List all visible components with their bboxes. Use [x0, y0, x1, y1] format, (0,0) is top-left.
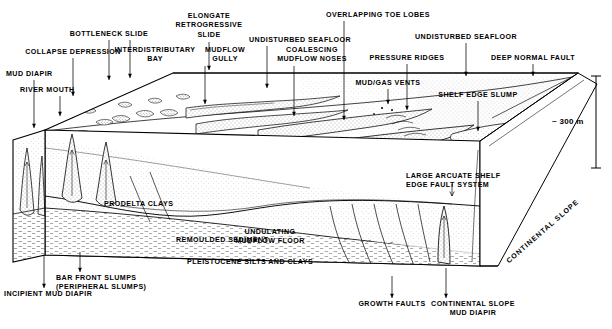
arrowhead-elongate-retrogressive-slide: [207, 66, 211, 70]
label-bottleneck-slide: BOTTLENECK SLIDE: [70, 30, 149, 39]
label-pressure-ridges: PRESSURE RIDGES: [370, 54, 445, 63]
label-undisturbed-seafloor-left: UNDISTURBED SEAFLOOR: [249, 36, 351, 45]
label-interdistributary-bay: INTERDISTRIBUTARY BAY: [115, 46, 196, 65]
label-mud-diapir: MUD DIAPIR: [6, 70, 53, 79]
label-mud-gas-vents: MUD/GAS VENTS: [356, 79, 421, 88]
label-collapse-depression: COLLAPSE DEPRESSION: [25, 48, 121, 57]
label-overlapping-toe-lobes: OVERLAPPING TOE LOBES: [326, 11, 430, 20]
block-diagram-figure: COLLAPSE DEPRESSIONBOTTLENECK SLIDEINTER…: [0, 0, 612, 329]
label-undisturbed-seafloor-right: UNDISTURBED SEAFLOOR: [415, 33, 517, 42]
arrowhead-bottleneck-slide: [107, 76, 111, 80]
arrowhead-growth-faults: [390, 294, 394, 298]
label-continental-slope-mud-diapir: CONTINENTAL SLOPE MUD DIAPIR: [431, 300, 515, 319]
scale-label: ~ 300 m: [552, 117, 584, 126]
label-large-arcuate-shelf-edge-fault-system: LARGE ARCUATE SHELF EDGE FAULT SYSTEM: [406, 172, 500, 191]
arrowhead-river-mouth: [58, 112, 62, 116]
label-mudflow-gully: MUDFLOW GULLY: [205, 46, 245, 65]
arrowhead-bar-front-slumps: [78, 268, 82, 272]
label-deep-normal-fault: DEEP NORMAL FAULT: [491, 54, 575, 63]
arrowhead-incipient-mud-diapir: [42, 284, 46, 288]
arrowhead-mud-diapir: [32, 124, 36, 128]
label-coalescing-mudflow-noses: COALESCING MUDFLOW NOSES: [277, 46, 347, 65]
label-elongate-retrogressive-slide: ELONGATE RETROGRESSIVE SLIDE: [176, 12, 243, 40]
label-prodelta-clays: PRODELTA CLAYS: [104, 200, 173, 209]
label-pleistocene-silts-and-clays: PLEISTOCENE SILTS AND CLAYS: [187, 258, 313, 267]
label-shelf-edge-slump: SHELF EDGE SLUMP: [438, 91, 517, 100]
label-growth-faults: GROWTH FAULTS: [358, 300, 425, 309]
label-undulating-mudflow-floor: UNDULATING MUDFLOW FLOOR: [235, 228, 305, 247]
label-river-mouth: RIVER MOUTH: [20, 86, 75, 95]
label-bar-front-slumps: BAR FRONT SLUMPS (PERIPHERAL SLUMPS): [56, 274, 146, 293]
arrowhead-continental-slope-mud-diapir: [444, 294, 448, 298]
arrowhead-interdistributary-bay: [128, 74, 132, 78]
left-cross-section: [13, 130, 45, 268]
